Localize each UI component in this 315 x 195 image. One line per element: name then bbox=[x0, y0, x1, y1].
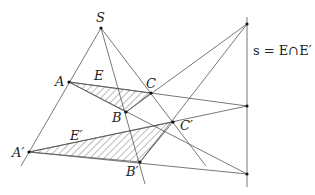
label-C: C bbox=[146, 76, 156, 91]
point-C-prime bbox=[171, 120, 174, 123]
label-A: A bbox=[54, 74, 64, 89]
point-C bbox=[149, 91, 152, 94]
triangle-E-prime bbox=[29, 122, 173, 162]
line-B'C' bbox=[140, 24, 247, 162]
point-B-prime bbox=[138, 160, 141, 163]
label-C-prime: C′ bbox=[180, 118, 193, 133]
point-S bbox=[99, 26, 102, 29]
point-axis-AC bbox=[245, 104, 248, 107]
point-axis-top bbox=[245, 22, 248, 25]
label-E: E bbox=[93, 68, 104, 83]
label-B-prime: B′ bbox=[125, 164, 139, 179]
label-S: S bbox=[96, 10, 105, 25]
point-A-prime bbox=[27, 150, 30, 153]
label-axis: s = E∩E′ bbox=[253, 43, 312, 58]
line-BC bbox=[126, 24, 247, 112]
label-A-prime: A′ bbox=[11, 145, 24, 160]
desargues-diagram: S A E C B E′ C′ A′ B′ s = E∩E′ bbox=[0, 0, 315, 195]
point-A bbox=[67, 80, 70, 83]
label-B: B bbox=[111, 110, 122, 125]
point-axis-AB bbox=[245, 172, 248, 175]
triangle-E bbox=[69, 82, 151, 112]
point-B bbox=[124, 110, 127, 113]
label-E-prime: E′ bbox=[69, 128, 82, 143]
line-AB bbox=[69, 82, 247, 174]
